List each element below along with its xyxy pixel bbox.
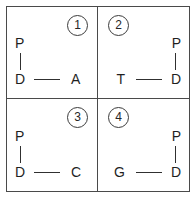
panel-index-badge: 2 bbox=[108, 15, 129, 36]
panel-index-badge: 3 bbox=[67, 107, 88, 128]
atom-hub-label: D bbox=[15, 72, 25, 86]
atom-top-label: P bbox=[172, 36, 181, 50]
horizontal-bond-line bbox=[34, 172, 60, 173]
atom-terminal-label: T bbox=[116, 72, 125, 86]
atom-top-label: P bbox=[15, 36, 24, 50]
atom-terminal-label: G bbox=[114, 165, 125, 179]
atom-top-label: P bbox=[15, 129, 24, 143]
vertical-bond-line bbox=[20, 53, 21, 70]
vertical-bond-line bbox=[20, 146, 21, 163]
structure-motif: P D C bbox=[15, 129, 87, 179]
vertical-bond-line bbox=[175, 53, 176, 70]
panel-2: 2 P D T bbox=[98, 7, 189, 99]
horizontal-bond-line bbox=[136, 172, 162, 173]
structure-motif: P D G bbox=[109, 129, 181, 179]
structure-motif: P D T bbox=[109, 36, 181, 86]
atom-top-label: P bbox=[172, 129, 181, 143]
diagram-figure: 1 P D A 2 P D T 3 P bbox=[6, 6, 190, 192]
atom-hub-label: D bbox=[171, 165, 181, 179]
horizontal-bond-line bbox=[34, 79, 60, 80]
panel-index-badge: 4 bbox=[108, 107, 129, 128]
panel-3: 3 P D C bbox=[7, 99, 98, 191]
horizontal-bond-line bbox=[136, 79, 162, 80]
atom-hub-label: D bbox=[15, 165, 25, 179]
panel-index-badge: 1 bbox=[67, 15, 88, 36]
panel-1: 1 P D A bbox=[7, 7, 98, 99]
panel-grid: 1 P D A 2 P D T 3 P bbox=[7, 7, 189, 191]
atom-hub-label: D bbox=[171, 72, 181, 86]
atom-terminal-label: A bbox=[71, 72, 80, 86]
panel-4: 4 P D G bbox=[98, 99, 189, 191]
vertical-bond-line bbox=[175, 146, 176, 163]
structure-motif: P D A bbox=[15, 36, 87, 86]
atom-terminal-label: C bbox=[71, 165, 81, 179]
